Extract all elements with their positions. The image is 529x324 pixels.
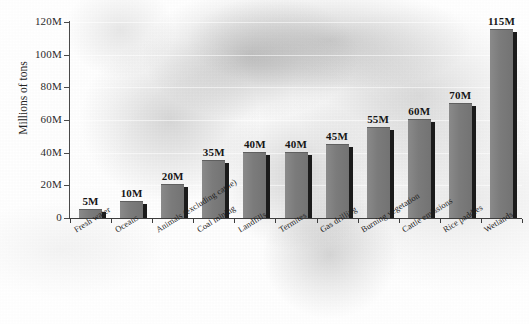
y-axis-line [69, 21, 70, 219]
bar-value-label: 45M [309, 130, 365, 142]
y-axis-tick-label: 40M [0, 146, 62, 158]
y-axis-tick-label: 120M [0, 15, 62, 27]
y-axis-tick-label: 20M [0, 178, 62, 190]
x-axis-tick-mark [234, 219, 235, 223]
bar-shadow-edge [513, 32, 517, 218]
bar-shadow-edge [308, 155, 312, 218]
x-axis-tick-mark [522, 219, 523, 223]
x-axis-tick-mark [481, 219, 482, 223]
y-axis-tick-label: 80M [0, 80, 62, 92]
bar-shadow-edge [472, 106, 476, 218]
x-axis-tick-mark [440, 219, 441, 223]
bar-value-label: 60M [391, 105, 447, 117]
bar-value-label: 115M [473, 15, 529, 27]
bar [490, 29, 513, 218]
x-axis-tick-mark [193, 219, 194, 223]
bar [243, 152, 266, 218]
y-axis-tick-label: 60M [0, 113, 62, 125]
y-axis-tick-label: 100M [0, 48, 62, 60]
bar-value-label: 70M [432, 89, 488, 101]
x-axis-tick-mark [70, 219, 71, 223]
bar [326, 144, 349, 219]
x-axis-tick-mark [399, 219, 400, 223]
x-axis-tick-mark [111, 219, 112, 223]
x-axis-tick-mark [317, 219, 318, 223]
x-axis-tick-mark [152, 219, 153, 223]
x-axis-tick-mark [275, 219, 276, 223]
figure-caption [10, 316, 410, 324]
x-axis-tick-mark [358, 219, 359, 223]
gridline [70, 55, 522, 56]
bar-value-label: 10M [104, 187, 160, 199]
chart-screenshot: Millions of tons 020M40M60M80M100M120M F… [0, 0, 529, 324]
bar-value-label: 20M [145, 170, 201, 182]
gridline [70, 22, 522, 23]
y-axis-tick-label: 0 [0, 211, 62, 223]
bar-shadow-edge [143, 204, 147, 218]
bar-shadow-edge [266, 155, 270, 218]
bar [367, 127, 390, 218]
bar [285, 152, 308, 218]
